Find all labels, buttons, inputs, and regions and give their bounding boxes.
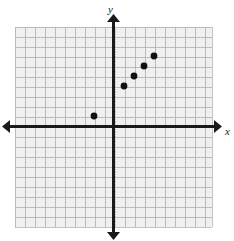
data-point <box>91 113 98 120</box>
data-point <box>121 83 128 90</box>
y-axis-arrow-up <box>107 14 120 22</box>
data-point <box>131 73 138 80</box>
y-axis-arrow-down <box>107 232 120 240</box>
x-axis-arrow-right <box>214 120 222 133</box>
coordinate-plane-svg: x y <box>0 0 234 241</box>
x-axis-label: x <box>224 125 230 137</box>
x-axis-arrow-left <box>2 120 10 133</box>
data-point <box>151 53 158 60</box>
y-axis-label: y <box>107 3 113 15</box>
data-point <box>141 63 148 70</box>
coordinate-plane-figure: x y <box>0 0 234 241</box>
